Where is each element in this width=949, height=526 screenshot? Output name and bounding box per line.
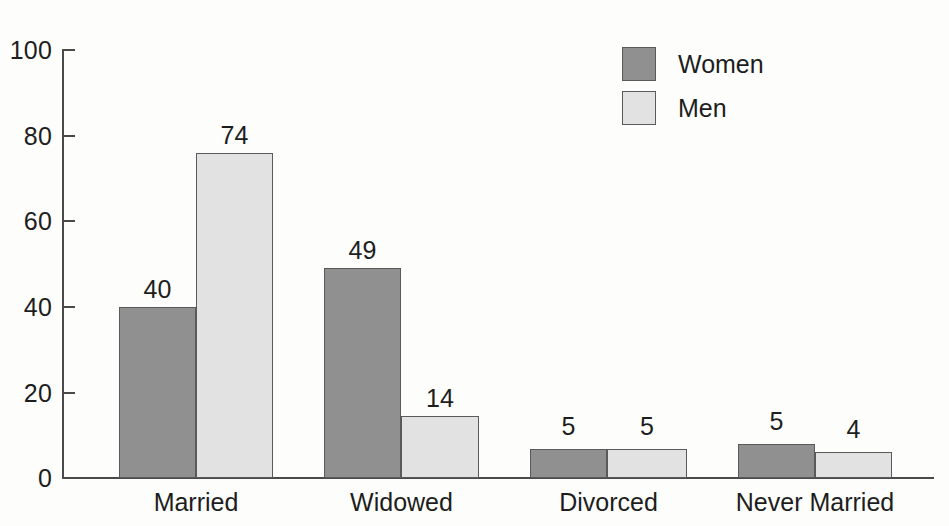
legend-item-women[interactable]: Women (622, 42, 764, 86)
bar-never-married-women[interactable] (738, 444, 815, 478)
bar-married-women[interactable] (119, 307, 196, 478)
y-axis-line (62, 50, 64, 479)
bar-value-never-married-women: 5 (738, 409, 815, 434)
bar-chart: 100 80 60 40 20 0 40 74 Married 49 14 Wi… (0, 0, 949, 526)
legend-swatch-women-icon (622, 47, 656, 81)
bar-value-divorced-women: 5 (530, 414, 607, 439)
legend-item-men[interactable]: Men (622, 86, 764, 130)
y-axis-tick-0 (62, 477, 75, 479)
bar-value-never-married-men: 4 (815, 417, 892, 442)
bar-never-married-men[interactable] (815, 452, 892, 478)
y-axis-label-20: 20 (0, 381, 52, 406)
bar-value-divorced-men: 5 (607, 414, 687, 439)
y-axis-label-80: 80 (0, 124, 52, 149)
bar-value-married-men: 74 (196, 123, 273, 148)
legend-label-women: Women (678, 52, 764, 77)
y-axis-label-0: 0 (0, 466, 52, 491)
legend: Women Men (622, 42, 764, 130)
legend-swatch-men-icon (622, 91, 656, 125)
bar-widowed-men[interactable] (401, 416, 479, 478)
bar-married-men[interactable] (196, 153, 273, 478)
y-axis-label-60: 60 (0, 209, 52, 234)
y-axis-tick-20 (62, 392, 75, 394)
bar-widowed-women[interactable] (324, 268, 401, 478)
bar-divorced-women[interactable] (530, 449, 607, 478)
y-axis-label-100: 100 (0, 38, 52, 63)
bar-value-widowed-women: 49 (324, 238, 401, 263)
bar-value-widowed-men: 14 (401, 386, 479, 411)
y-axis-tick-40 (62, 306, 75, 308)
plot-area: 100 80 60 40 20 0 40 74 Married 49 14 Wi… (0, 0, 949, 526)
x-axis-label-divorced: Divorced (530, 490, 687, 515)
x-axis-label-widowed: Widowed (324, 490, 479, 515)
legend-label-men: Men (678, 96, 727, 121)
x-axis-label-married: Married (119, 490, 273, 515)
bar-divorced-men[interactable] (607, 449, 687, 478)
y-axis-tick-100 (62, 49, 75, 51)
y-axis-label-40: 40 (0, 295, 52, 320)
bar-value-married-women: 40 (119, 277, 196, 302)
y-axis-tick-80 (62, 135, 75, 137)
x-axis-label-never-married: Never Married (732, 490, 898, 515)
y-axis-tick-60 (62, 220, 75, 222)
